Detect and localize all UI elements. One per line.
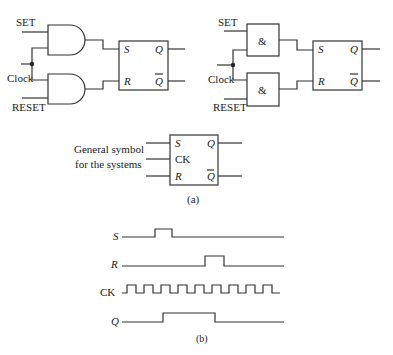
junction-dot-2 — [231, 63, 235, 67]
junction-dot — [30, 62, 34, 66]
timing-q-label: Q — [111, 315, 119, 327]
gen-qbar-label: Q — [207, 170, 215, 182]
general-caption-line1: General symbol — [74, 143, 144, 155]
general-symbol: General symbol for the systems S CK R Q … — [74, 135, 242, 206]
reset-label: RESET — [12, 101, 46, 113]
gate-bottom-ampersand: & — [258, 84, 267, 96]
timing-ck-label: CK — [100, 286, 115, 298]
and-gate-circuit: SET Clock RESET S R Q Q — [7, 16, 185, 113]
ff-s-label: S — [124, 43, 130, 55]
sr-flipflop-figure: SET Clock RESET S R Q Q SET Clock RESET — [0, 0, 393, 355]
gate-top-ampersand: & — [258, 35, 267, 47]
ff2-s-label: S — [318, 43, 324, 55]
gen-q-label: Q — [207, 137, 215, 149]
s-waveform — [122, 229, 284, 237]
part-a-label: (a) — [187, 193, 200, 206]
ff2-q-label: Q — [350, 43, 358, 55]
reset-label-2: RESET — [213, 101, 247, 113]
gen-s-label: S — [175, 137, 181, 149]
r-waveform — [122, 256, 284, 266]
ck-waveform — [122, 285, 280, 293]
timing-diagram: S R CK Q (b) — [100, 229, 284, 345]
ff2-qbar-label: Q — [350, 75, 358, 87]
set-label: SET — [16, 16, 36, 28]
ff2-r-label: R — [317, 75, 325, 87]
q-waveform — [122, 313, 284, 322]
general-caption-line2: for the systems — [75, 158, 142, 170]
gen-ck-label: CK — [175, 153, 190, 165]
ff-qbar-label: Q — [155, 75, 163, 87]
and-gate-top — [48, 25, 85, 55]
clock-label-2: Clock — [208, 73, 235, 85]
timing-r-label: R — [110, 258, 118, 270]
set-label-2: SET — [218, 16, 238, 28]
and-gate-bottom — [48, 74, 85, 104]
ieee-gate-circuit: SET Clock RESET & & S R Q Q — [208, 16, 380, 113]
clock-label: Clock — [7, 72, 34, 84]
gen-r-label: R — [174, 170, 182, 182]
ff-q-label: Q — [155, 43, 163, 55]
timing-s-label: S — [113, 230, 119, 242]
ff-r-label: R — [123, 75, 131, 87]
part-b-label: (b) — [196, 333, 208, 345]
